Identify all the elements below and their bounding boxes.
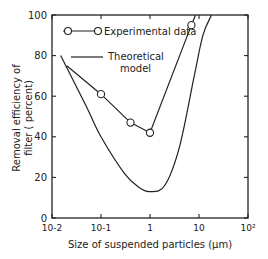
data-point-circle-icon (127, 119, 134, 126)
x-tick-label: 10² (240, 223, 255, 233)
data-point-circle-icon (146, 129, 153, 136)
data-point-circle-icon (97, 91, 104, 98)
legend: Experimental data Theoretical model (63, 26, 196, 74)
x-tick-label: 10-2 (42, 223, 62, 233)
y-axis-ticks: 020406080100 (28, 10, 248, 224)
legend-theoretical-label-1: Theoretical (107, 51, 164, 62)
theoretical-curve (61, 15, 212, 192)
legend-marker-circle-icon (65, 28, 72, 35)
x-tick-label: 10 (193, 223, 205, 233)
y-tick-label: 80 (34, 50, 47, 61)
series-group (61, 15, 212, 192)
legend-marker-circle-icon (95, 28, 102, 35)
y-axis-label-line2: filter ( percent) (23, 80, 34, 156)
legend-experimental-label: Experimental data (104, 26, 196, 37)
legend-theoretical-label-2: model (120, 63, 151, 74)
y-tick-label: 100 (28, 10, 47, 21)
y-tick-label: 20 (34, 172, 47, 183)
y-tick-label: 0 (41, 213, 47, 224)
y-axis-label-line1: Removal efficiency of (11, 64, 22, 172)
x-axis-ticks: 10-210-111010² (42, 15, 256, 233)
y-tick-label: 40 (34, 131, 47, 142)
chart: 020406080100 10-210-111010² Experimental… (0, 0, 268, 259)
x-axis-label: Size of suspended particles (µm) (68, 239, 232, 250)
x-tick-label: 1 (147, 223, 153, 233)
y-tick-label: 60 (34, 91, 47, 102)
y-axis-label: Removal efficiency of filter ( percent) (11, 64, 34, 172)
plot-frame (52, 15, 248, 218)
x-tick-label: 10-1 (91, 223, 111, 233)
